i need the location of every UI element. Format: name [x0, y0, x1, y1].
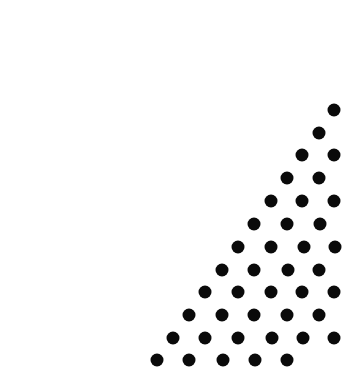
- dot: [329, 241, 342, 254]
- dot: [265, 241, 278, 254]
- dot: [248, 218, 261, 231]
- dot: [217, 354, 230, 367]
- dot: [199, 286, 212, 299]
- dot: [199, 332, 212, 345]
- dot: [281, 354, 294, 367]
- dot: [313, 264, 326, 277]
- dot: [313, 172, 326, 185]
- dot: [328, 332, 341, 345]
- dot: [296, 195, 309, 208]
- dot: [328, 286, 341, 299]
- dot: [282, 264, 295, 277]
- dot: [281, 218, 294, 231]
- dot: [183, 354, 196, 367]
- dot: [281, 309, 294, 322]
- dot: [328, 149, 341, 162]
- dot: [281, 172, 294, 185]
- dot: [313, 127, 326, 140]
- dot: [313, 309, 326, 322]
- dot: [151, 354, 164, 367]
- dot: [297, 332, 310, 345]
- dot: [296, 286, 309, 299]
- dot: [328, 195, 341, 208]
- dot: [167, 332, 180, 345]
- dot: [265, 195, 278, 208]
- dot: [232, 332, 245, 345]
- dot: [266, 332, 279, 345]
- dot: [216, 264, 229, 277]
- dot: [183, 309, 196, 322]
- dot: [232, 241, 245, 254]
- dot: [298, 241, 311, 254]
- dot: [314, 218, 327, 231]
- dot: [232, 286, 245, 299]
- dot: [265, 286, 278, 299]
- dot: [216, 309, 229, 322]
- dot: [328, 104, 341, 117]
- dot: [296, 149, 309, 162]
- dot: [248, 264, 261, 277]
- dot: [248, 309, 261, 322]
- dot: [249, 354, 262, 367]
